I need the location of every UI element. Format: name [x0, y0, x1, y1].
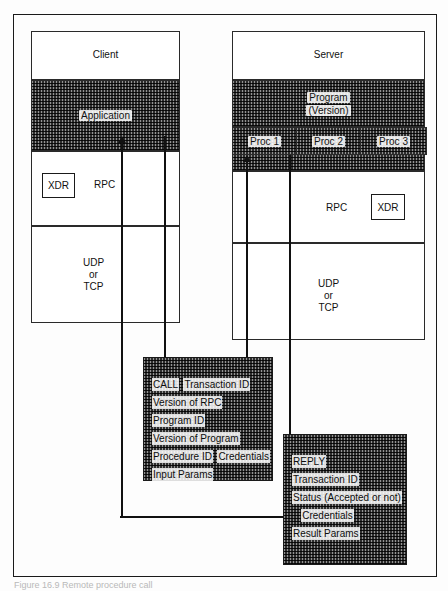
server-proc-1-label: Proc 1: [233, 136, 296, 148]
client-transport-box: UDP or TCP: [31, 226, 180, 323]
server-proc-1-box[interactable]: Proc 1: [232, 127, 297, 155]
call-field: Program ID: [152, 414, 205, 427]
server-transport-or: or: [233, 290, 424, 302]
server-program-label-line2: (Version): [233, 105, 424, 117]
reply-field: Transaction ID: [292, 473, 359, 486]
server-transport-udp: UDP: [233, 278, 424, 290]
reply-return-hline: [120, 516, 286, 518]
reply-field: Status (Accepted or not): [292, 491, 402, 504]
server-proc-3-text: Proc 3: [377, 136, 410, 147]
server-proc-3-box[interactable]: Proc 3: [360, 127, 427, 155]
server-call-vline: [246, 161, 248, 358]
server-xdr-label: XDR: [372, 202, 404, 214]
call-packet-box[interactable]: CALL Transaction ID Version of RPC Progr…: [143, 357, 273, 481]
server-procedures-band: Proc 1 Proc 2 Proc 3: [232, 127, 425, 171]
client-xdr-label: XDR: [43, 180, 74, 192]
call-field: Credentials: [217, 450, 270, 463]
server-program-box: Program (Version): [232, 80, 425, 127]
rpc-diagram: Client Application XDR RPC UDP or TCP Se…: [0, 0, 448, 591]
client-xdr-box: XDR: [42, 173, 75, 198]
client-transport-or: or: [8, 269, 179, 281]
reply-field: Credentials: [301, 509, 354, 522]
client-reply-vline: [121, 142, 123, 518]
client-application-box: Application: [31, 80, 180, 151]
reply-packet-fields: REPLY Transaction ID Status (Accepted or…: [292, 451, 406, 541]
call-field: Procedure ID: [152, 450, 213, 463]
server-call-arrowhead: [243, 155, 251, 162]
server-reply-vline: [289, 155, 291, 437]
reply-field: REPLY: [292, 455, 326, 468]
client-title-box: Client: [31, 31, 180, 80]
server-proc-2-label: Proc 2: [297, 136, 360, 148]
client-title: Client: [32, 49, 179, 61]
server-proc-2-text: Proc 2: [312, 136, 345, 147]
server-title-box: Server: [232, 31, 425, 80]
server-transport-tcp: TCP: [233, 302, 424, 314]
call-field: Transaction ID: [183, 378, 250, 391]
call-field: Version of RPC: [152, 396, 222, 409]
figure-caption: Figure 16.9 Remote procedure call: [14, 580, 153, 590]
client-transport-udp: UDP: [8, 257, 179, 269]
server-rpc-label: RPC: [326, 202, 347, 214]
server-proc-3-label: Proc 3: [361, 136, 426, 148]
server-rpc-box: RPC XDR: [232, 171, 425, 243]
reply-packet-box[interactable]: REPLY Transaction ID Status (Accepted or…: [283, 434, 407, 565]
server-proc-2-box[interactable]: Proc 2: [296, 127, 361, 155]
server-title: Server: [233, 49, 424, 61]
call-field: Input Params: [152, 468, 213, 481]
client-application-text: Application: [79, 110, 132, 121]
call-field: Version of Program: [152, 432, 240, 445]
reply-field: Result Params: [292, 527, 360, 540]
client-call-vline: [164, 136, 166, 358]
server-program-label-line1: Program: [233, 92, 424, 104]
call-packet-fields: CALL Transaction ID Version of RPC Progr…: [152, 374, 272, 482]
client-application-label: Application: [32, 110, 179, 122]
call-field: CALL: [152, 378, 179, 391]
client-transport-tcp: TCP: [8, 281, 179, 293]
server-program-text-1: Program: [307, 92, 349, 103]
client-rpc-label: RPC: [94, 179, 115, 191]
server-transport-box: UDP or TCP: [232, 243, 425, 340]
server-program-text-2: (Version): [306, 105, 350, 116]
server-proc-1-text: Proc 1: [248, 136, 281, 147]
client-reply-arrowhead: [118, 136, 126, 143]
client-rpc-box: XDR RPC: [31, 151, 180, 226]
server-xdr-box: XDR: [371, 194, 405, 220]
